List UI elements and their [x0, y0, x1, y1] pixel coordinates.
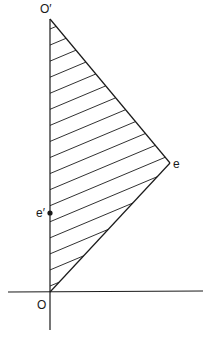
label-o-prime: O′ [40, 3, 52, 15]
hatch-line [50, 229, 108, 253]
hatch-line [50, 145, 155, 189]
hatch-line [50, 157, 165, 205]
label-e-prime: e′ [36, 207, 45, 219]
hatch-line [50, 50, 76, 61]
edge-o-prime-to-e [50, 19, 170, 163]
horizontal-axis [8, 291, 203, 292]
e-prime-point [47, 210, 52, 215]
label-o: O [37, 299, 46, 311]
hatch-line [50, 26, 56, 29]
hatch-line [50, 98, 116, 126]
hatch-line [50, 134, 145, 174]
label-e: e [173, 158, 180, 170]
hatch-line [50, 256, 84, 270]
hatching [50, 26, 165, 286]
hatch-line [50, 203, 133, 238]
hatch-line [50, 62, 86, 77]
hatch-line [50, 74, 96, 93]
hatch-line [50, 122, 136, 158]
hatch-line [50, 38, 66, 45]
hatch-line [50, 110, 126, 142]
